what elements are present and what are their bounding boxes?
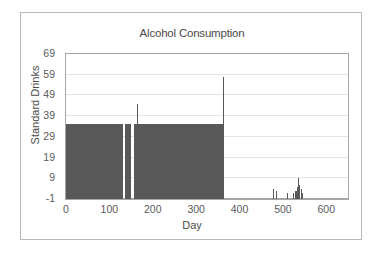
- x-axis-label: Day: [21, 219, 363, 231]
- y-axis-tick-labels: -19192939495969: [21, 47, 61, 207]
- chart-container: Alcohol Consumption Standard Drinks -191…: [20, 12, 362, 240]
- y-tick-label: 19: [21, 151, 55, 163]
- bar: [302, 193, 303, 199]
- bar: [287, 193, 288, 199]
- x-tick-label: 300: [187, 203, 205, 215]
- y-tick-label: 49: [21, 88, 55, 100]
- x-tick-label: 600: [318, 203, 336, 215]
- x-tick-label: 200: [144, 203, 162, 215]
- x-tick-label: 0: [63, 203, 69, 215]
- chart-title: Alcohol Consumption: [21, 27, 363, 39]
- y-tick-label: 39: [21, 109, 55, 121]
- bar: [273, 189, 274, 199]
- bar: [121, 124, 122, 199]
- y-tick-label: 29: [21, 130, 55, 142]
- x-tick-label: 500: [274, 203, 292, 215]
- y-tick-label: -1: [21, 192, 55, 204]
- bar: [223, 77, 224, 199]
- y-tick-label: 69: [21, 47, 55, 59]
- bar: [293, 193, 294, 199]
- y-tick-label: 59: [21, 68, 55, 80]
- bar: [276, 191, 277, 199]
- gridline: [66, 53, 348, 54]
- x-tick-label: 100: [101, 203, 119, 215]
- plot-area: [65, 53, 349, 200]
- bar: [130, 124, 131, 199]
- y-tick-label: 9: [21, 171, 55, 183]
- gridline: [66, 94, 348, 95]
- gridline: [66, 74, 348, 75]
- x-tick-label: 400: [231, 203, 249, 215]
- gridline: [66, 115, 348, 116]
